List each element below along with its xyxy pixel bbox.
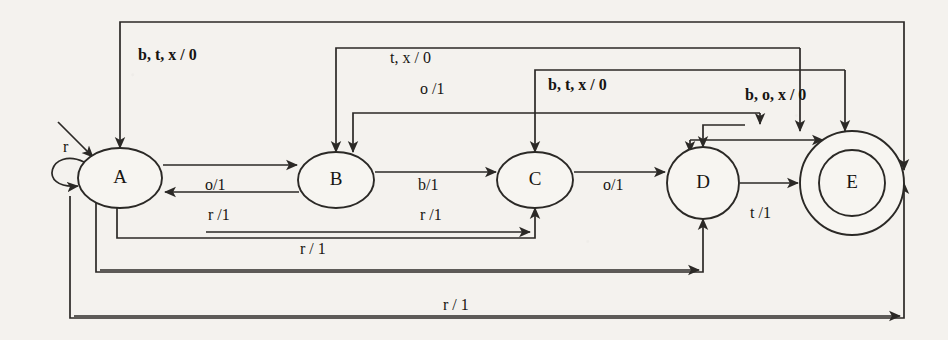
label-d-to-c-btx0: b, t, x / 0 <box>548 76 607 93</box>
label-c-to-b-o1: o /1 <box>420 80 444 97</box>
label-e-self-loop: b, o, x / 0 <box>745 86 806 103</box>
label-b-to-c: b/1 <box>418 176 438 193</box>
label-c-to-d: o/1 <box>603 176 623 193</box>
label-a-to-b: o/1 <box>205 176 225 193</box>
state-diagram-canvas: A B C D E r b, t, x / 0 t, <box>0 0 948 340</box>
label-r1-to-c: r /1 <box>420 206 442 223</box>
state-label-e: E <box>846 171 858 192</box>
state-label-a: A <box>113 166 127 187</box>
label-b-to-a-btx0: b, t, x / 0 <box>138 46 197 63</box>
state-label-c: C <box>529 168 542 189</box>
label-self-loop-a: r <box>63 138 69 155</box>
label-c-to-b-tx0: t, x / 0 <box>390 49 431 66</box>
state-node-b[interactable]: B <box>298 152 374 208</box>
edge-b-to-a-btx0 <box>120 22 870 148</box>
edge-e-to-a-r1 <box>70 183 904 318</box>
state-label-b: B <box>330 168 343 189</box>
edge-d-to-a-r1 <box>96 196 703 272</box>
state-node-e[interactable]: E <box>800 131 904 235</box>
label-d-to-e: t /1 <box>750 204 771 221</box>
edge-layer <box>52 22 904 318</box>
state-label-d: D <box>696 171 710 192</box>
state-node-d[interactable]: D <box>667 147 739 219</box>
label-r1-to-d: r / 1 <box>300 240 326 257</box>
edge-c-to-b-o1 <box>353 113 760 152</box>
state-machine-diagram: A B C D E r b, t, x / 0 t, <box>0 0 948 340</box>
edge-e-to-d-riser <box>703 125 745 147</box>
state-node-a[interactable]: A <box>78 148 162 208</box>
label-r1-bottom: r / 1 <box>443 296 469 313</box>
label-b-to-a: r /1 <box>208 206 230 223</box>
state-node-c[interactable]: C <box>497 152 573 208</box>
